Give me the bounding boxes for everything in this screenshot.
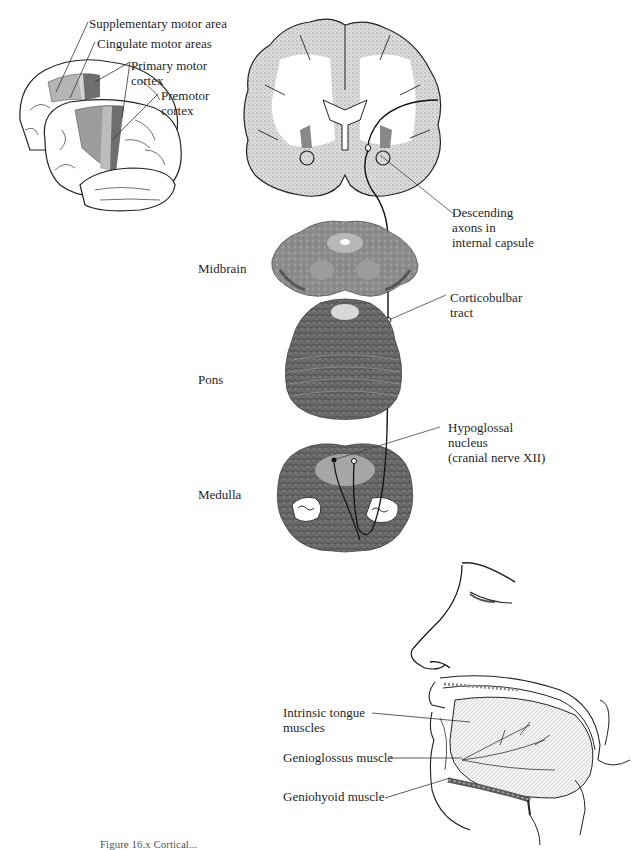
- label-hypoglossal-nucleus: Hypoglossal nucleus (cranial nerve XII): [448, 420, 545, 465]
- label-descending-axons-internal-capsule: Descending axons in internal capsule: [452, 205, 534, 250]
- label-midbrain: Midbrain: [198, 261, 246, 276]
- midbrain-section: [272, 221, 418, 296]
- label-cingulate-motor-areas: Cingulate motor areas: [97, 36, 212, 51]
- label-supplementary-motor-area: Supplementary motor area: [89, 16, 227, 31]
- label-premotor-cortex: Premotor cortex: [161, 88, 209, 118]
- figure-caption-cropped: Figure 16.x Cortical...: [100, 838, 197, 850]
- label-corticobulbar-tract: Corticobulbar tract: [450, 290, 522, 320]
- coronal-section-illustration: [244, 19, 455, 215]
- label-pons: Pons: [198, 372, 223, 387]
- label-geniohyoid-muscle: Geniohyoid muscle: [283, 789, 384, 804]
- pons-section: [285, 299, 401, 420]
- medulla-section: [277, 427, 440, 552]
- label-primary-motor-cortex: Primary motor cortex: [131, 58, 207, 88]
- label-intrinsic-tongue-muscles: Intrinsic tongue muscles: [283, 705, 365, 735]
- label-genioglossus-muscle: Genioglossus muscle: [283, 750, 393, 765]
- label-medulla: Medulla: [198, 487, 241, 502]
- tongue-sagittal-illustration: [372, 563, 630, 845]
